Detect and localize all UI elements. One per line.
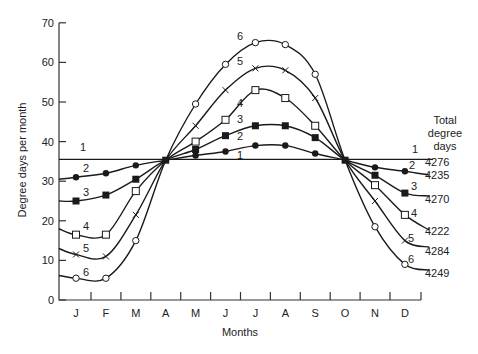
y-tick-label: 70 <box>42 17 54 29</box>
series-3-marker <box>132 176 139 183</box>
series-2-marker <box>133 162 139 168</box>
series-2-marker <box>282 142 288 148</box>
y-tick-label: 30 <box>42 175 54 187</box>
crossing-point-marker <box>162 157 169 164</box>
x-tick-label: J <box>253 307 259 319</box>
series-3-label-peak: 3 <box>237 113 243 125</box>
series-3-label-right: 3 <box>411 180 417 192</box>
series-1-label-peak: 1 <box>237 149 243 161</box>
x-tick-label: A <box>282 307 290 319</box>
series-6-marker <box>73 275 79 281</box>
series-4-line <box>59 89 429 238</box>
series-6-label-right: 6 <box>408 253 414 265</box>
series-4-marker <box>192 138 199 145</box>
series-4-marker <box>132 188 139 195</box>
series-2-label-peak: 2 <box>237 130 243 142</box>
curves <box>59 40 433 281</box>
series-2-marker <box>252 142 258 148</box>
series-4-label-peak: 4 <box>237 97 243 109</box>
series-4-marker <box>282 95 289 102</box>
degree-days-chart: 010203040506070JFMAMJJASONDMonthsDegree … <box>0 0 478 354</box>
series-4-label-left: 4 <box>83 220 89 232</box>
series-6-label-left: 6 <box>83 266 89 278</box>
y-tick-label: 40 <box>42 136 54 148</box>
series-4-total: 4222 <box>425 225 449 237</box>
series-2-label-left: 2 <box>83 162 89 174</box>
series-3-marker <box>372 172 379 179</box>
x-tick-label: A <box>162 307 170 319</box>
series-4-marker <box>252 87 259 94</box>
series-3-line <box>59 124 429 201</box>
series-2-label-right: 2 <box>409 159 415 171</box>
series-4-marker <box>222 116 229 123</box>
series-5-total: 4284 <box>425 245 449 257</box>
series-5-marker <box>133 212 139 218</box>
series-1-label-right: 1 <box>412 143 418 155</box>
x-tick-label: M <box>191 307 200 319</box>
series-2-marker <box>402 168 408 174</box>
x-tick-label: M <box>131 307 140 319</box>
y-tick-label: 50 <box>42 96 54 108</box>
series-2-total: 4235 <box>425 169 449 181</box>
x-tick-label: D <box>401 307 409 319</box>
x-tick-label: J <box>73 307 79 319</box>
series-3-marker <box>282 122 289 129</box>
series-5-line <box>59 66 429 259</box>
series-5-marker <box>103 253 109 259</box>
series-6-total: 4249 <box>425 267 449 279</box>
series-6-marker <box>133 237 139 243</box>
series-3-marker <box>312 134 319 141</box>
y-tick-label: 10 <box>42 254 54 266</box>
series-3-marker <box>252 122 259 129</box>
series-2-marker <box>312 150 318 156</box>
legend-title: degree <box>428 127 462 139</box>
x-axis-title: Months <box>222 326 259 338</box>
y-tick-label: 60 <box>42 56 54 68</box>
y-tick-label: 0 <box>48 294 54 306</box>
series-5-label-peak: 5 <box>237 55 243 67</box>
x-tick-label: F <box>103 307 110 319</box>
crossing-point-marker <box>342 157 349 164</box>
legend-title: days <box>433 140 457 152</box>
series-6-marker <box>372 224 378 230</box>
legend-title: Total <box>433 114 456 126</box>
series-4-marker <box>102 231 109 238</box>
series-2-marker <box>192 152 198 158</box>
series-1-total: 4276 <box>425 156 449 168</box>
series-5-marker <box>223 87 229 93</box>
x-tick-label: O <box>341 307 350 319</box>
series-3-label-left: 3 <box>83 186 89 198</box>
x-tick-label: S <box>312 307 319 319</box>
series-3-marker <box>401 190 408 197</box>
series-6-marker <box>282 41 288 47</box>
series-5-label-right: 5 <box>408 232 414 244</box>
series-6-marker <box>103 275 109 281</box>
series-3-marker <box>192 146 199 153</box>
series-6-label-peak: 6 <box>237 30 243 42</box>
series-3-marker <box>102 192 109 199</box>
series-6-marker <box>192 101 198 107</box>
series-6-marker <box>312 71 318 77</box>
y-axis-title: Degree days per month <box>16 103 28 218</box>
series-4-marker <box>73 231 80 238</box>
series-3-marker <box>222 132 229 139</box>
series-2-marker <box>73 174 79 180</box>
y-tick-label: 20 <box>42 215 54 227</box>
series-6-line <box>59 40 429 281</box>
series-4-marker <box>401 211 408 218</box>
series-4-marker <box>312 122 319 129</box>
series-3-marker <box>73 198 80 205</box>
series-2-marker <box>222 148 228 154</box>
series-6-marker <box>222 61 228 67</box>
x-tick-label: N <box>371 307 379 319</box>
series-4-marker <box>372 182 379 189</box>
series-5-marker <box>193 123 199 129</box>
series-2-marker <box>103 170 109 176</box>
series-4-label-right: 4 <box>411 207 417 219</box>
series-5-marker <box>282 67 288 73</box>
series-5-marker <box>372 198 378 204</box>
series-2-marker <box>372 164 378 170</box>
x-tick-label: J <box>223 307 229 319</box>
series-1-label-left: 1 <box>80 141 86 153</box>
series-6-marker <box>252 39 258 45</box>
